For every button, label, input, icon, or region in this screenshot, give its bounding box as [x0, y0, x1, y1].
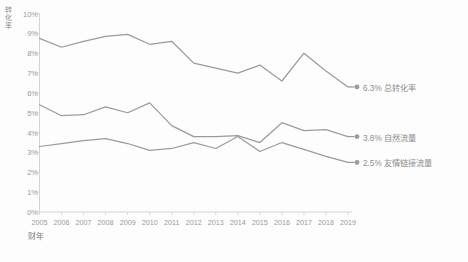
- x-tick-label: 2015: [252, 218, 268, 227]
- line-chart: 转化率 0%1%2%3%4%5%6%7%8%9%10% 200520062007…: [0, 0, 468, 262]
- series-line: [40, 137, 349, 163]
- series-end-dot: [355, 160, 360, 165]
- series-end-label: 6.3% 总转化率: [363, 81, 416, 93]
- x-tick-label: 2005: [32, 218, 48, 227]
- x-axis-title: 财年: [28, 230, 44, 241]
- x-tick-label: 2016: [274, 218, 290, 227]
- cropped-caption-artifact: ​: [0, 252, 468, 262]
- series-line: [40, 34, 349, 87]
- x-tick-label: 2019: [340, 218, 356, 227]
- series-line: [40, 103, 349, 143]
- x-tick-label: 2006: [54, 218, 70, 227]
- x-tick-label: 2018: [318, 218, 334, 227]
- x-tick-label: 2008: [98, 218, 114, 227]
- series-end-label: 2.5% 友情链接流量: [363, 156, 432, 168]
- x-tick-label: 2017: [296, 218, 312, 227]
- x-tick-label: 2011: [164, 218, 179, 227]
- x-tick-label: 2012: [186, 218, 202, 227]
- x-tick-label: 2009: [120, 218, 136, 227]
- series-end-dot: [355, 85, 360, 90]
- series-end-dot: [355, 134, 360, 139]
- x-tick-label: 2013: [208, 218, 224, 227]
- x-tick-label: 2007: [76, 218, 92, 227]
- x-tick-label: 2010: [142, 218, 158, 227]
- x-tick-label: 2014: [230, 218, 246, 227]
- series-end-label: 3.8% 自然流量: [363, 131, 416, 143]
